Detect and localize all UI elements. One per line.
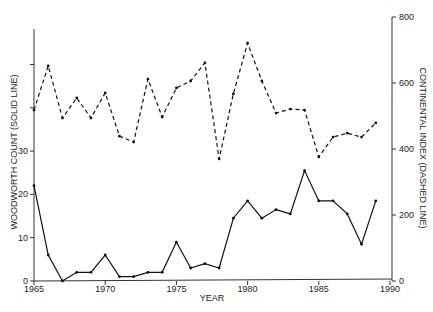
solid-data-point bbox=[232, 217, 235, 220]
solid-data-point bbox=[132, 275, 135, 278]
solid-data-point bbox=[303, 169, 306, 172]
chart: 196519701975198019851990 0102030 0200400… bbox=[0, 0, 433, 312]
left-axis-ticks: 0102030 bbox=[18, 65, 34, 287]
dashed-data-point bbox=[232, 92, 235, 95]
left-tick-label: 30 bbox=[18, 146, 28, 156]
dashed-data-point bbox=[175, 87, 178, 90]
dashed-data-point bbox=[303, 109, 306, 112]
dashed-data-point bbox=[246, 42, 249, 45]
right-tick-label: 800 bbox=[399, 12, 414, 22]
dashed-data-point bbox=[332, 136, 335, 139]
solid-data-point bbox=[203, 262, 206, 265]
dashed-data-point bbox=[147, 78, 150, 81]
solid-data-point bbox=[332, 199, 335, 202]
series-layer bbox=[33, 42, 378, 283]
left-axis-title: WOODWORTH COUNT (SOLID LINE) bbox=[9, 74, 19, 229]
solid-data-point bbox=[374, 199, 377, 202]
x-tick-label: 1975 bbox=[166, 284, 186, 294]
x-axis-title: YEAR bbox=[200, 293, 225, 303]
solid-data-point bbox=[275, 208, 278, 211]
dashed-data-point bbox=[132, 141, 135, 144]
dashed-data-point bbox=[203, 61, 206, 64]
dashed-data-point bbox=[374, 122, 377, 125]
dashed-data-point bbox=[346, 132, 349, 135]
dashed-data-point bbox=[61, 117, 64, 120]
right-tick-label: 400 bbox=[399, 144, 414, 154]
dashed-data-point bbox=[33, 109, 36, 112]
solid-data-point bbox=[75, 271, 78, 274]
dashed-data-point bbox=[218, 158, 221, 161]
dashed-data-point bbox=[275, 112, 278, 115]
solid-data-point bbox=[47, 254, 50, 257]
right-tick-label: 600 bbox=[399, 78, 414, 88]
woodworth-count-points bbox=[33, 169, 378, 282]
dashed-data-point bbox=[360, 136, 363, 139]
solid-data-point bbox=[90, 271, 93, 274]
solid-data-point bbox=[289, 212, 292, 215]
dashed-data-point bbox=[104, 92, 107, 95]
right-tick-label: 0 bbox=[399, 276, 404, 286]
right-axis-ticks: 0200400600800 bbox=[392, 12, 414, 286]
solid-data-point bbox=[246, 199, 249, 202]
solid-data-point bbox=[61, 280, 64, 283]
solid-data-point bbox=[317, 199, 320, 202]
dashed-data-point bbox=[289, 108, 292, 111]
x-tick-label: 1985 bbox=[309, 284, 329, 294]
plot-axes: 196519701975198019851990 0102030 0200400… bbox=[18, 12, 414, 294]
dashed-data-point bbox=[47, 64, 50, 67]
x-tick-label: 1970 bbox=[95, 284, 115, 294]
continental-index-dashed-line bbox=[34, 43, 376, 159]
x-axis-line bbox=[34, 279, 392, 281]
solid-data-point bbox=[218, 267, 221, 270]
left-tick-label: 20 bbox=[18, 189, 28, 199]
right-tick-label: 200 bbox=[399, 210, 414, 220]
solid-data-point bbox=[161, 271, 164, 274]
right-axis-title: CONTINENTAL INDEX (DASHED LINE) bbox=[418, 67, 428, 228]
dashed-data-point bbox=[189, 80, 192, 83]
solid-data-point bbox=[33, 184, 36, 187]
left-tick-label: 10 bbox=[18, 233, 28, 243]
left-tick-label: 0 bbox=[23, 276, 28, 286]
dashed-data-point bbox=[260, 80, 263, 83]
dashed-data-point bbox=[161, 116, 164, 119]
solid-data-point bbox=[147, 271, 150, 274]
dashed-data-point bbox=[75, 96, 78, 99]
solid-data-point bbox=[360, 243, 363, 246]
solid-data-point bbox=[118, 275, 121, 278]
solid-data-point bbox=[260, 217, 263, 220]
dashed-data-point bbox=[118, 135, 121, 138]
dashed-data-point bbox=[317, 156, 320, 159]
continental-index-points bbox=[33, 42, 378, 161]
solid-data-point bbox=[346, 212, 349, 215]
solid-data-point bbox=[175, 241, 178, 244]
x-tick-label: 1990 bbox=[380, 284, 400, 294]
dashed-data-point bbox=[90, 117, 93, 120]
solid-data-point bbox=[104, 254, 107, 257]
solid-data-point bbox=[189, 267, 192, 270]
x-tick-label: 1980 bbox=[238, 284, 258, 294]
